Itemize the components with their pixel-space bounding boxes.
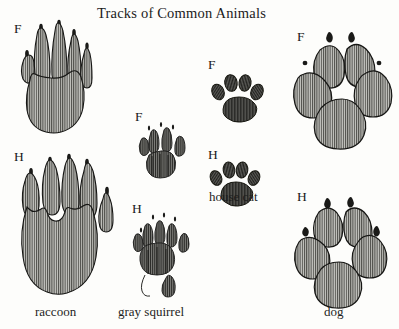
species-label-gray-squirrel: gray squirrel	[118, 305, 184, 318]
house-cat-front-track	[210, 72, 268, 122]
gray-squirrel-front-track	[136, 122, 196, 188]
tracks-illustration-plate: Tracks of Common Animals F	[0, 0, 399, 329]
dog-front-track	[290, 30, 396, 150]
plate-title-text: Tracks of Common Animals	[97, 5, 266, 22]
species-label-house-cat: house cat	[209, 190, 258, 203]
dog-hind-track	[293, 196, 393, 306]
cat-front-foot-label: F	[208, 58, 216, 72]
species-label-dog: dog	[324, 305, 344, 318]
squirrel-front-claws	[148, 122, 174, 131]
raccoon-front-track	[16, 22, 108, 134]
gray-squirrel-hind-track	[131, 212, 201, 300]
plate-title: Tracks of Common Animals	[0, 5, 399, 22]
raccoon-hind-track	[14, 155, 124, 295]
species-label-raccoon: raccoon	[35, 305, 76, 318]
